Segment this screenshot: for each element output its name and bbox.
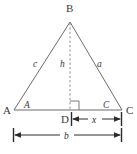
side-label-a: a: [97, 59, 102, 69]
dimension-x-arrow-right-icon: [114, 116, 121, 121]
vertex-label-a: A: [3, 104, 11, 116]
dimension-b: b: [14, 128, 122, 142]
dimension-x-arrow-left-icon: [72, 116, 79, 121]
vertex-label-c: C: [126, 104, 133, 116]
angle-label-a: A: [23, 100, 30, 110]
dimension-b-label: b: [64, 131, 69, 141]
angle-label-c: C: [103, 100, 110, 110]
vertex-label-d: D: [61, 113, 69, 125]
altitude-label-h: h: [60, 59, 65, 69]
right-angle-marker-icon: [70, 101, 79, 110]
dimension-x: x: [72, 112, 122, 126]
dimension-b-arrow-right-icon: [114, 132, 121, 137]
geometry-diagram: A B C D c a h A C x b: [0, 0, 137, 154]
vertex-label-b: B: [66, 2, 73, 14]
triangle-outline: [14, 22, 122, 110]
triangle-diagram-canvas: A B C D c a h A C x b: [0, 0, 137, 154]
side-label-c: c: [33, 59, 38, 69]
dimension-x-label: x: [91, 115, 97, 125]
dimension-b-arrow-left-icon: [14, 132, 21, 137]
